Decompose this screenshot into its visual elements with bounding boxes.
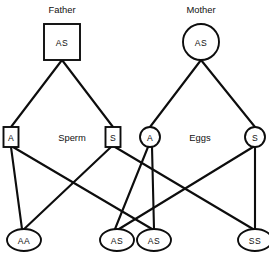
edge-group xyxy=(11,60,255,231)
edge-sperm-a-to-child-aa xyxy=(11,147,22,229)
offspring-group: AA AS AS SS xyxy=(7,229,269,251)
pedigree-canvas: AS Father AS Mother A S A S Sperm Eggs A… xyxy=(0,0,269,266)
child-as-2-genotype-label: AS xyxy=(148,236,160,246)
edge-mother-to-egg-a xyxy=(150,60,201,127)
child-ss-genotype-label: SS xyxy=(249,236,261,246)
father-genotype-label: AS xyxy=(56,38,68,48)
gamete-group: A S A S xyxy=(4,127,266,147)
edge-father-to-sperm-a xyxy=(11,60,62,127)
edge-egg-a-to-child-as-2 xyxy=(152,147,154,229)
edge-father-to-sperm-s xyxy=(62,60,113,127)
sperm-s-allele-label: S xyxy=(110,133,116,143)
eggs-group-label: Eggs xyxy=(189,132,211,143)
child-as-1-genotype-label: AS xyxy=(111,236,123,246)
egg-a-allele-label: A xyxy=(147,133,153,143)
sperm-a-allele-label: A xyxy=(8,133,14,143)
mother-title-label: Mother xyxy=(186,4,215,15)
group-label-group: Sperm Eggs xyxy=(58,132,211,143)
sperm-group-label: Sperm xyxy=(58,132,86,143)
parent-group: AS Father AS Mother xyxy=(44,4,219,61)
mother-genotype-label: AS xyxy=(195,38,207,48)
inheritance-diagram: AS Father AS Mother A S A S Sperm Eggs A… xyxy=(0,0,269,266)
father-title-label: Father xyxy=(48,4,75,15)
egg-s-allele-label: S xyxy=(252,133,258,143)
child-aa-genotype-label: AA xyxy=(18,236,30,246)
edge-mother-to-egg-s xyxy=(201,60,255,127)
